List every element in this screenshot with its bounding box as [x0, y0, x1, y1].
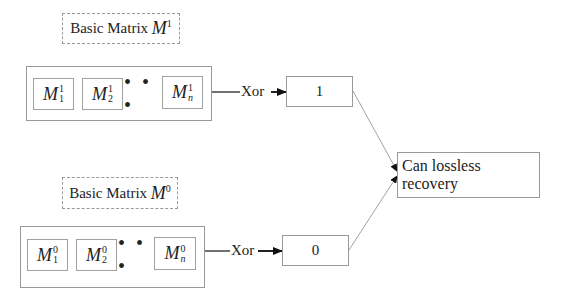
group-title-m0: Basic Matrix M0	[62, 177, 178, 209]
group-title-m1: Basic Matrix M1	[62, 13, 180, 44]
matrix-cell: M12	[82, 78, 123, 110]
matrix-cell: M01	[27, 239, 68, 271]
title-symbol: M1	[152, 18, 172, 39]
matrix-cell: M02	[76, 239, 117, 271]
title-text: Basic Matrix	[70, 20, 148, 37]
xor-label: Xor	[240, 83, 265, 100]
ellipsis: • • •	[124, 78, 162, 110]
xor-label: Xor	[230, 242, 255, 259]
result-box-0: 0	[282, 235, 349, 266]
result-box-1: 1	[286, 76, 353, 107]
ellipsis: • • •	[118, 239, 154, 271]
output-box: Can lossless recovery	[397, 152, 540, 198]
matrix-cell: M1n	[162, 76, 203, 109]
matrix-cell: M11	[33, 78, 74, 110]
matrix-cell: M0n	[154, 237, 196, 270]
title-text: Basic Matrix	[69, 185, 147, 202]
title-symbol: M0	[151, 183, 171, 204]
